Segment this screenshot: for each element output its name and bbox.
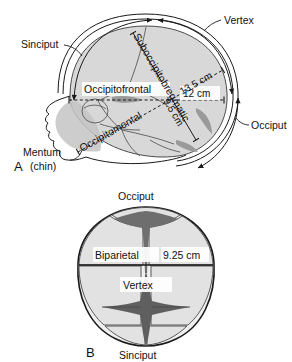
panel-b-superior-skull: Occiput Biparietal 9.25 cm Vertex Sincip… xyxy=(0,185,292,362)
label-sinciput-b: Sinciput xyxy=(119,349,156,361)
panel-letter-b: B xyxy=(86,345,95,360)
panel-letter-a: A xyxy=(14,159,23,174)
label-mentum: Mentum xyxy=(23,146,61,158)
label-occiput: Occiput xyxy=(251,119,287,131)
panel-a-lateral-skull: Sinciput Vertex Occiput Mentum (chin) Oc… xyxy=(0,0,292,185)
figure-container: Sinciput Vertex Occiput Mentum (chin) Oc… xyxy=(0,0,292,362)
value-biparietal: 9.25 cm xyxy=(163,249,201,261)
label-biparietal: Biparietal xyxy=(95,249,139,261)
label-occipitofrontal: Occipitofrontal xyxy=(84,83,151,95)
label-vertex: Vertex xyxy=(224,14,255,26)
label-mentum-chin: (chin) xyxy=(30,160,56,172)
label-vertex-b: Vertex xyxy=(123,279,154,291)
label-occiput-b: Occiput xyxy=(118,190,154,202)
label-sinciput: Sinciput xyxy=(21,38,58,50)
